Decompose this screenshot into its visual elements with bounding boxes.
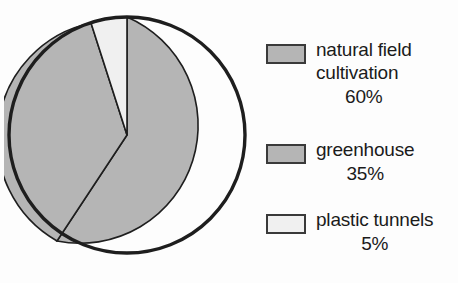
legend: natural field cultivation 60% greenhouse… (266, 34, 458, 266)
legend-text-greenhouse: greenhouse 35% (316, 138, 414, 186)
legend-value-plastic-tunnels: 5% (316, 231, 433, 256)
legend-value-natural-field-cultivation: 60% (316, 84, 412, 109)
legend-label-plastic-tunnels: plastic tunnels (316, 208, 433, 231)
legend-item-natural-field-cultivation: natural field cultivation 60% (266, 38, 412, 109)
legend-item-greenhouse: greenhouse 35% (266, 138, 414, 186)
legend-item-plastic-tunnels: plastic tunnels 5% (266, 208, 433, 256)
pie-svg (4, 4, 254, 272)
pie-chart-graphic (4, 4, 254, 272)
legend-label-natural-field-cultivation: natural field cultivation (316, 38, 412, 84)
legend-value-greenhouse: 35% (316, 161, 414, 186)
legend-text-plastic-tunnels: plastic tunnels 5% (316, 208, 433, 256)
legend-swatch-plastic-tunnels (266, 214, 306, 234)
legend-swatch-greenhouse (266, 144, 306, 164)
legend-text-natural-field-cultivation: natural field cultivation 60% (316, 38, 412, 109)
pie-chart-figure: natural field cultivation 60% greenhouse… (0, 0, 458, 283)
legend-label-greenhouse: greenhouse (316, 138, 414, 161)
legend-swatch-natural-field-cultivation (266, 44, 306, 64)
